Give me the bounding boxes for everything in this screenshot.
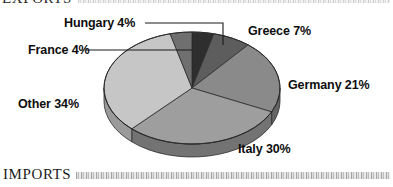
slice-label-italy: Italy 30% — [238, 142, 291, 156]
chart-page: EXPORTS Hungary 4% France 4% Other 34% G… — [0, 0, 393, 187]
pie-slices — [104, 32, 280, 144]
imports-section-heading: IMPORTS — [3, 166, 71, 183]
slice-label-greece: Greece 7% — [248, 24, 311, 38]
pie-chart-svg — [0, 0, 393, 187]
exports-pie-chart — [0, 0, 393, 187]
slice-label-hungary: Hungary 4% — [64, 16, 135, 30]
slice-label-germany: Germany 21% — [288, 78, 370, 92]
slice-label-france: France 4% — [28, 43, 90, 57]
slice-label-other: Other 34% — [18, 97, 79, 111]
imports-heading-rule — [76, 172, 390, 179]
